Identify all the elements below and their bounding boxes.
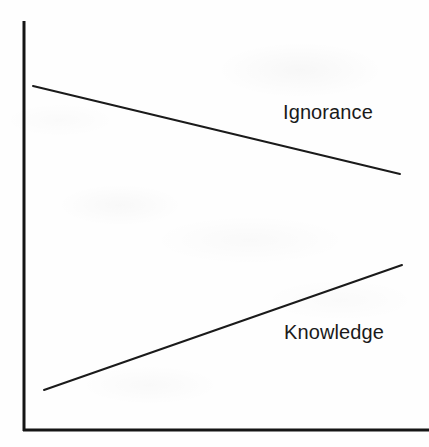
- plot-area: [0, 0, 429, 447]
- chart-figure: Ignorance Knowledge: [0, 0, 429, 447]
- series-label-ignorance: Ignorance: [283, 102, 373, 122]
- series-label-knowledge: Knowledge: [284, 322, 384, 342]
- series-line-ignorance: [33, 86, 400, 174]
